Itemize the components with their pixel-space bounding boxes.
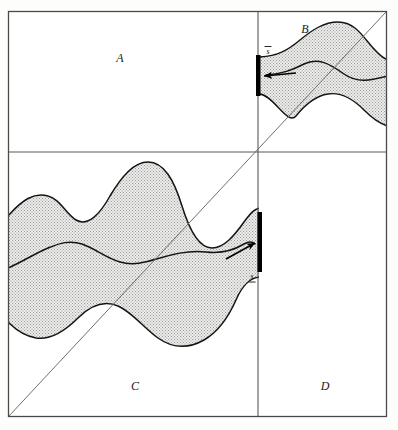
figure-root: A B C D s s	[0, 0, 398, 430]
quadrant-label-b: B	[301, 22, 309, 36]
upper-bound-label: s	[266, 47, 269, 56]
quadrant-label-d: D	[320, 379, 330, 393]
phase-diagram-figure: A B C D s s	[0, 0, 398, 430]
lower-bound-bar	[258, 212, 263, 272]
quadrant-label-c: C	[131, 379, 140, 393]
upper-bound-bar	[256, 55, 261, 96]
quadrant-label-a: A	[115, 51, 124, 65]
lower-bound-label: s	[250, 272, 253, 281]
